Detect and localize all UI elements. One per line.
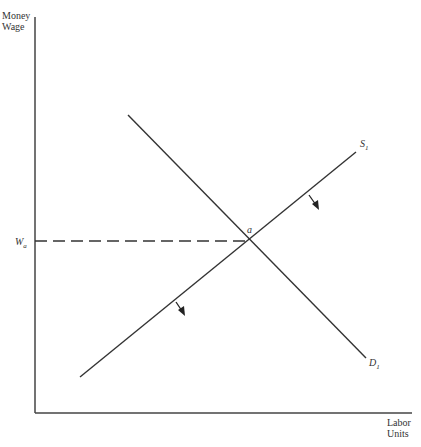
x-axis-label-line1: Labor xyxy=(387,417,411,428)
shift-arrow-upper xyxy=(309,195,319,210)
y-axis-label-line1: Money xyxy=(2,10,30,21)
demand-curve-d1 xyxy=(128,115,366,358)
y-axis-label: Money Wage xyxy=(2,10,30,32)
x-axis-label: Labor Units xyxy=(387,417,411,439)
wage-label: Wa xyxy=(15,236,27,252)
supply-curve-s1 xyxy=(80,152,356,377)
x-axis-label-line2: Units xyxy=(387,428,411,439)
demand-label: D1 xyxy=(369,357,380,373)
diagram-canvas xyxy=(0,0,421,447)
equilibrium-label: a xyxy=(247,224,252,235)
y-axis-label-line2: Wage xyxy=(2,21,30,32)
shift-arrow-lower xyxy=(176,302,185,316)
supply-label: S1 xyxy=(360,138,369,154)
